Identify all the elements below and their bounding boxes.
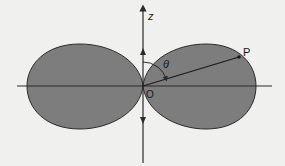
dipole-arrow-down-icon xyxy=(140,117,146,124)
o-label: O xyxy=(146,89,154,100)
dipole-arrow-up-icon xyxy=(140,48,146,55)
theta-label: θ xyxy=(163,58,169,70)
polar-diagram: z θ P O xyxy=(0,0,285,166)
z-label: z xyxy=(147,10,154,22)
p-label: P xyxy=(243,46,250,58)
point-p xyxy=(237,55,241,59)
